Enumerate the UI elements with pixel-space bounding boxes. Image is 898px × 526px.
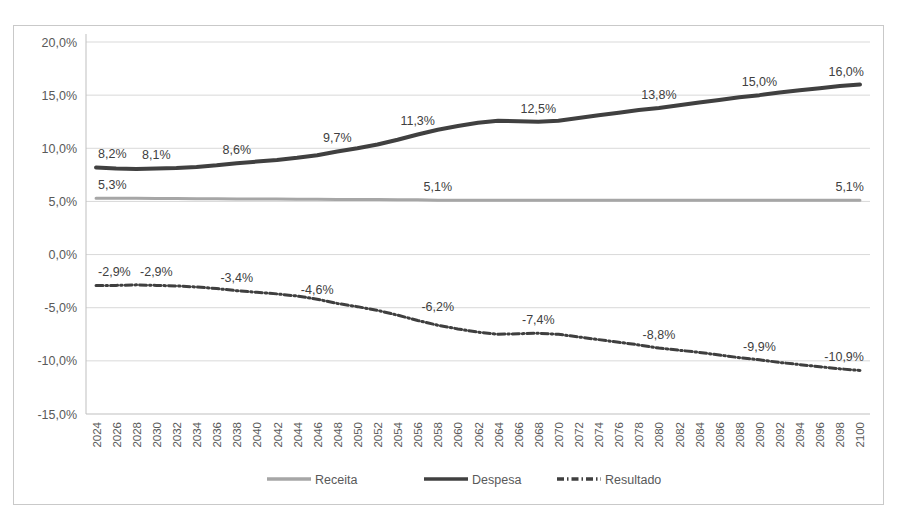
data-label: 15,0% — [742, 75, 777, 89]
x-tick-label: 2052 — [372, 422, 384, 448]
series-line-receita — [96, 198, 860, 200]
data-label: 16,0% — [828, 65, 863, 79]
x-tick-label: 2066 — [513, 422, 525, 448]
x-tick-label: 2026 — [111, 422, 123, 448]
data-labels-group: 5,3%5,1%5,1%8,2%8,1%8,6%9,7%11,3%12,5%13… — [98, 65, 864, 365]
chart-container: 20,0%15,0%10,0%5,0%0,0%-5,0%-10,0%-15,0%… — [13, 25, 884, 505]
series-lines-group — [96, 85, 860, 371]
data-label: 8,2% — [98, 147, 127, 161]
data-label: -7,4% — [522, 313, 555, 327]
x-tick-label: 2084 — [694, 421, 706, 447]
x-tick-label: 2096 — [814, 422, 826, 448]
y-tick-label: 5,0% — [49, 195, 78, 209]
x-tick-label: 2088 — [734, 422, 746, 448]
legend-label-receita: Receita — [315, 473, 357, 487]
x-tick-label: 2086 — [714, 422, 726, 448]
chart-legend: ReceitaDespesaResultado — [267, 473, 661, 487]
line-chart: 20,0%15,0%10,0%5,0%0,0%-5,0%-10,0%-15,0%… — [14, 26, 883, 504]
x-tick-label: 2062 — [473, 422, 485, 448]
legend-label-despesa: Despesa — [472, 473, 521, 487]
data-label: -2,9% — [98, 265, 131, 279]
x-tick-label: 2064 — [493, 421, 505, 447]
data-label: 8,6% — [223, 143, 252, 157]
x-tick-label: 2092 — [774, 422, 786, 448]
x-axis-tick-labels: 2024202620282030203220342036203820402042… — [91, 421, 867, 447]
series-line-resultado — [96, 285, 860, 371]
x-tick-label: 2028 — [131, 422, 143, 448]
x-tick-label: 2056 — [412, 422, 424, 448]
data-label: 8,1% — [142, 148, 171, 162]
y-axis-tick-labels: 20,0%15,0%10,0%5,0%0,0%-5,0%-10,0%-15,0% — [37, 36, 77, 422]
x-tick-label: 2078 — [633, 422, 645, 448]
y-tick-label: 20,0% — [42, 36, 77, 50]
data-label: 9,7% — [323, 131, 352, 145]
data-label: 12,5% — [521, 102, 556, 116]
y-tick-label: 0,0% — [49, 248, 78, 262]
data-label: 11,3% — [400, 114, 435, 128]
data-label: 5,1% — [835, 180, 864, 194]
y-tick-label: -5,0% — [44, 301, 77, 315]
cropped-title-artifact — [150, 0, 470, 12]
x-tick-label: 2080 — [653, 422, 665, 448]
x-tick-label: 2070 — [553, 422, 565, 448]
x-tick-label: 2044 — [292, 421, 304, 447]
x-tick-label: 2054 — [392, 421, 404, 447]
x-tick-label: 2098 — [834, 422, 846, 448]
x-tick-label: 2030 — [151, 422, 163, 448]
data-label: -6,2% — [421, 300, 454, 314]
x-tick-label: 2050 — [352, 422, 364, 448]
x-tick-label: 2034 — [191, 421, 203, 447]
data-label: 5,1% — [424, 180, 453, 194]
x-tick-label: 2048 — [332, 422, 344, 448]
x-tick-label: 2076 — [613, 422, 625, 448]
series-line-despesa — [96, 85, 860, 170]
x-tick-label: 2040 — [251, 422, 263, 448]
x-tick-label: 2082 — [674, 422, 686, 448]
gridlines-group — [86, 34, 870, 414]
y-tick-label: -10,0% — [37, 354, 77, 368]
data-label: -2,9% — [140, 265, 173, 279]
y-tick-label: 10,0% — [42, 142, 77, 156]
x-tick-label: 2072 — [573, 422, 585, 448]
data-label: -4,6% — [301, 283, 334, 297]
x-tick-label: 2024 — [91, 421, 103, 447]
x-tick-label: 2058 — [432, 422, 444, 448]
data-label: 5,3% — [98, 178, 127, 192]
legend-label-resultado: Resultado — [605, 473, 661, 487]
x-tick-label: 2060 — [452, 422, 464, 448]
data-label: 13,8% — [641, 88, 676, 102]
data-label: -9,9% — [743, 340, 776, 354]
x-tick-label: 2046 — [312, 422, 324, 448]
x-tick-label: 2094 — [794, 421, 806, 447]
y-tick-label: 15,0% — [42, 89, 77, 103]
data-label: -3,4% — [220, 271, 253, 285]
x-tick-label: 2100 — [854, 422, 866, 448]
x-tick-label: 2074 — [593, 421, 605, 447]
data-label: -8,8% — [643, 328, 676, 342]
x-tick-label: 2090 — [754, 422, 766, 448]
x-tick-label: 2038 — [231, 422, 243, 448]
x-tick-label: 2032 — [171, 422, 183, 448]
x-tick-label: 2068 — [533, 422, 545, 448]
x-tick-label: 2042 — [272, 422, 284, 448]
data-label: -10,9% — [824, 350, 864, 364]
y-tick-label: -15,0% — [37, 408, 77, 422]
x-tick-label: 2036 — [211, 422, 223, 448]
